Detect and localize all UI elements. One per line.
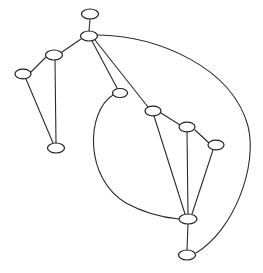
graph-node[interactable]	[113, 89, 128, 98]
graph-edge	[55, 60, 56, 143]
graph-node[interactable]	[48, 143, 65, 153]
graph-edge	[154, 116, 185, 214]
graph-canvas	[0, 0, 263, 273]
graph-node[interactable]	[81, 31, 98, 41]
node-layer	[15, 9, 224, 260]
graph-edge	[89, 19, 90, 31]
graph-edge	[161, 113, 180, 125]
graph-edge	[195, 130, 209, 143]
graph-edge	[187, 132, 188, 214]
graph-edge	[93, 95, 179, 219]
graph-edge	[187, 224, 188, 250]
graph-node[interactable]	[179, 250, 196, 260]
graph-node[interactable]	[145, 106, 161, 116]
graph-edge	[31, 57, 46, 72]
graph-diagram	[0, 0, 263, 273]
graph-node[interactable]	[82, 9, 99, 19]
graph-node[interactable]	[15, 69, 31, 79]
graph-edge	[92, 41, 117, 88]
graph-edge	[62, 39, 81, 52]
graph-node[interactable]	[46, 50, 63, 60]
graph-node[interactable]	[179, 214, 197, 224]
graph-node[interactable]	[179, 122, 195, 132]
graph-edge	[26, 79, 53, 143]
graph-edge	[97, 35, 250, 253]
graph-node[interactable]	[208, 140, 224, 150]
graph-edge	[192, 150, 213, 214]
